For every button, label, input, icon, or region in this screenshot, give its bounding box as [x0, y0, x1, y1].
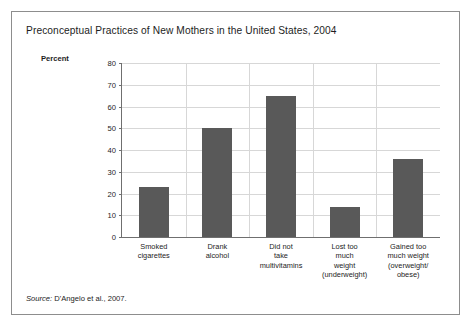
y-tick-mark [119, 215, 122, 216]
source-note: Source: D'Angelo et al., 2007. [26, 294, 127, 303]
bar [266, 96, 296, 237]
x-axis-label: Lost toomuchweight(underweight) [312, 242, 378, 280]
bar [393, 159, 423, 237]
y-tick-mark [119, 107, 122, 108]
category-separator [376, 63, 377, 237]
y-tick-mark [119, 172, 122, 173]
gridline [122, 63, 440, 64]
gridline [122, 85, 440, 86]
y-axis-title: Percent [41, 54, 69, 63]
plot-area: 01020304050607080 SmokedcigarettesDranka… [121, 63, 440, 238]
y-tick-mark [119, 150, 122, 151]
plot-wrapper: 01020304050607080 SmokedcigarettesDranka… [111, 55, 441, 241]
y-tick-mark [119, 194, 122, 195]
x-axis-label: Did nottakemultivitamins [248, 242, 314, 270]
bar [202, 128, 232, 237]
x-axis-label: Gained toomuch weight(overweight/obese) [375, 242, 441, 280]
y-tick-mark [119, 237, 122, 238]
bar [139, 187, 169, 237]
y-tick-mark [119, 85, 122, 86]
y-tick-mark [119, 128, 122, 129]
chart-title: Preconceptual Practices of New Mothers i… [26, 25, 337, 36]
bar [330, 207, 360, 237]
x-axis-label: Drankalcohol [184, 242, 250, 261]
category-separator [313, 63, 314, 237]
category-separator [186, 63, 187, 237]
y-tick-mark [119, 63, 122, 64]
figure-panel: Preconceptual Practices of New Mothers i… [11, 11, 460, 315]
source-value: D'Angelo et al., 2007. [52, 294, 126, 303]
x-axis-label: Smokedcigarettes [121, 242, 187, 261]
category-separator [249, 63, 250, 237]
source-label: Source: [26, 294, 52, 303]
